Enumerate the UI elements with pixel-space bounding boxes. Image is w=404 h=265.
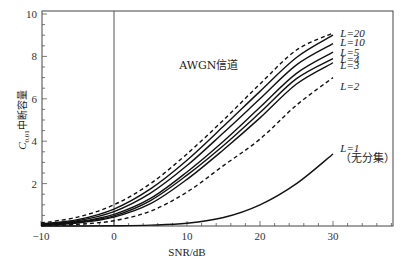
x-tick-label: 30 [328, 230, 340, 242]
y-tick-label: 10 [26, 8, 38, 20]
curve-l-2 [41, 78, 333, 226]
y-axis-title: C0.01中断容量 [16, 90, 31, 150]
curve-annotation: L=3 [339, 59, 360, 71]
x-tick-label: −10 [32, 230, 50, 242]
curve-annotation: AWGN信道 [178, 58, 238, 72]
curve-annotation: L=2 [339, 80, 360, 92]
y-tick-label: 8 [32, 50, 38, 62]
x-tick-label: 0 [111, 230, 117, 242]
curve-l-4 [41, 59, 333, 225]
y-axis-ticks: 246810 [26, 8, 47, 215]
y-tick-label: 6 [32, 93, 38, 105]
curve-l-3 [41, 63, 333, 225]
outage-capacity-chart: −100102030 246810 AWGN信道L=20L=10L=5L=4L=… [0, 0, 404, 265]
x-axis-title: SNR/dB [168, 246, 205, 258]
y-tick-label: 4 [32, 135, 38, 147]
y-axis-title-sub: 0.01 [23, 130, 31, 143]
y-tick-label: 2 [32, 178, 38, 190]
x-tick-label: 20 [255, 230, 267, 242]
svg-text:C0.01中断容量: C0.01中断容量 [16, 90, 31, 150]
y-axis-title-cn: 中断容量 [16, 90, 28, 130]
curve-l-5 [41, 52, 333, 225]
x-tick-label: 10 [182, 230, 194, 242]
curve-annotation: （无分集） [340, 151, 395, 165]
